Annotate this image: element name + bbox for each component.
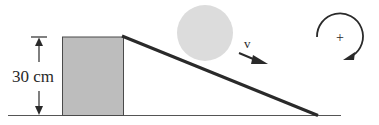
height-label: 30 cm	[12, 67, 54, 86]
arrow-up-icon	[35, 38, 43, 47]
velocity-label: v	[244, 36, 251, 51]
rolling-ball	[177, 5, 233, 61]
physics-diagram: 30 cm v +	[0, 0, 379, 125]
arrow-right-down-icon	[251, 55, 268, 64]
velocity-indicator: v	[239, 36, 268, 64]
rotation-indicator: +	[317, 13, 363, 60]
rotation-sign-label: +	[336, 30, 344, 45]
height-dimension: 30 cm	[12, 37, 54, 115]
arrow-down-icon	[35, 106, 43, 115]
support-block	[63, 37, 124, 116]
rotation-arrowhead-icon	[343, 52, 355, 60]
